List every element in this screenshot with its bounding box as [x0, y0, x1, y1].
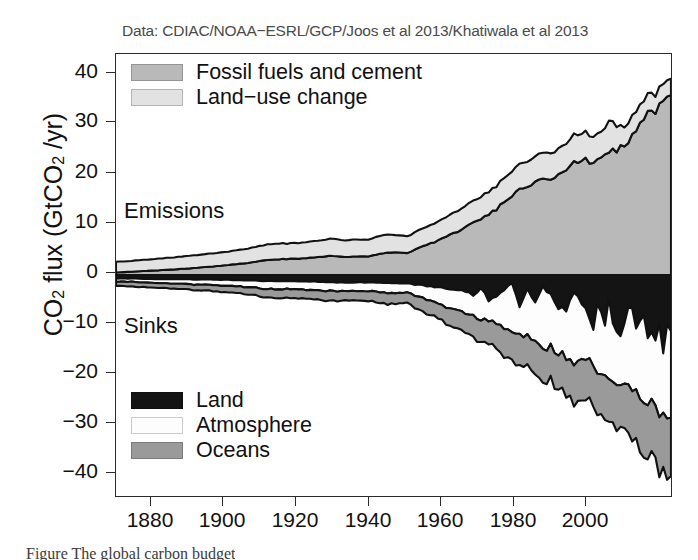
legend-item-land-use-change: Land−use change: [131, 86, 422, 109]
legend-item-fossil-fuels: Fossil fuels and cement: [131, 61, 422, 84]
x-tick-mark-1880: [150, 497, 151, 506]
data-source-note: Data: CDIAC/NOAA−ESRL/GCP/Joos et al 201…: [122, 22, 588, 40]
x-tick-label-1960: 1960: [405, 508, 475, 532]
legend-item-atmosphere: Atmosphere: [131, 414, 312, 437]
y-tick-mark-0: [106, 272, 115, 273]
fossil-fuels-swatch: [131, 64, 183, 81]
land-use-change-swatch: [131, 89, 183, 106]
x-tick-label-1880: 1880: [115, 508, 185, 532]
x-tick-mark-1960: [440, 497, 441, 506]
y-tick-label-m20: −20: [48, 359, 98, 383]
sinks-annotation: Sinks: [124, 313, 178, 339]
legend-label-land: Land: [196, 390, 244, 412]
x-tick-mark-1980: [513, 497, 514, 506]
y-tick-mark-m40: [106, 472, 115, 473]
legend-sinks: Land Atmosphere Oceans: [131, 389, 312, 464]
x-tick-mark-2000: [585, 497, 586, 506]
ocean-sink-swatch: [131, 442, 183, 459]
y-tick-label-10: 10: [48, 209, 98, 233]
x-tick-label-1920: 1920: [260, 508, 330, 532]
legend-label-land-use-change: Land−use change: [196, 87, 368, 109]
land-sink-swatch: [131, 392, 183, 409]
y-tick-label-m40: −40: [48, 459, 98, 483]
figure-root: Data: CDIAC/NOAA−ESRL/GCP/Joos et al 201…: [0, 0, 698, 560]
x-tick-label-2000: 2000: [550, 508, 620, 532]
legend-emissions: Fossil fuels and cement Land−use change: [131, 61, 422, 111]
legend-label-oceans: Oceans: [196, 440, 270, 462]
y-tick-mark-30: [106, 121, 115, 122]
legend-item-land: Land: [131, 389, 312, 412]
y-tick-label-m30: −30: [48, 409, 98, 433]
y-tick-mark-10: [106, 222, 115, 223]
y-tick-mark-m10: [106, 322, 115, 323]
x-tick-label-1900: 1900: [187, 508, 257, 532]
y-tick-label-20: 20: [48, 159, 98, 183]
x-tick-label-1980: 1980: [478, 508, 548, 532]
y-tick-label-30: 30: [48, 108, 98, 132]
y-tick-mark-40: [106, 72, 115, 73]
x-tick-label-1940: 1940: [333, 508, 403, 532]
y-tick-mark-m20: [106, 372, 115, 373]
y-tick-mark-20: [106, 172, 115, 173]
figure-caption: Figure The global carbon budget: [26, 545, 235, 560]
y-tick-label-0: 0: [48, 259, 98, 283]
x-tick-mark-1920: [295, 497, 296, 506]
emissions-annotation: Emissions: [124, 198, 224, 224]
legend-label-atmosphere: Atmosphere: [196, 415, 312, 437]
legend-label-fossil-fuels: Fossil fuels and cement: [196, 62, 422, 84]
legend-item-oceans: Oceans: [131, 439, 312, 462]
x-tick-mark-1900: [222, 497, 223, 506]
atmosphere-sink-swatch: [131, 417, 183, 434]
y-tick-mark-m30: [106, 422, 115, 423]
y-tick-label-m10: −10: [48, 309, 98, 333]
x-tick-mark-1940: [368, 497, 369, 506]
y-tick-label-40: 40: [48, 59, 98, 83]
